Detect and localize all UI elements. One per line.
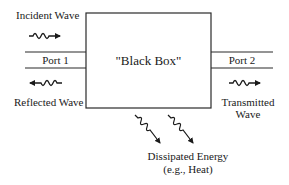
transmitted-wave-icon [229,81,260,86]
dissipated-wave-icon-2 [168,115,193,143]
dissipated-wave-icon-1 [135,115,160,143]
reflected-wave-icon [30,81,62,86]
reflected-wave-label: Reflected Wave [14,96,83,108]
port-2-label: Port 2 [211,54,273,66]
black-box-label: "Black Box" [86,53,211,69]
port-1-label: Port 1 [25,54,86,66]
incident-wave-icon [29,34,60,39]
transmitted-wave-label-line1: Transmitted [218,96,278,108]
dissipated-energy-label-line1: Dissipated Energy [140,150,236,162]
transmitted-wave-label-line2: Wave [218,108,278,120]
incident-wave-label: Incident Wave [16,9,79,21]
dissipated-energy-label-line2: (e.g., Heat) [140,163,236,175]
